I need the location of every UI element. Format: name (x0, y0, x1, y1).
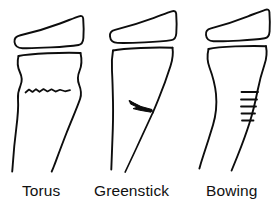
caption-bowing: Bowing (206, 182, 257, 200)
greenstick-right-cortex (153, 48, 173, 113)
greenstick-left-cortex (111, 51, 113, 170)
torus-right-cortex (52, 53, 82, 172)
panel-torus (12, 16, 83, 172)
torus-metaphysis-shaft-outline (19, 53, 81, 56)
caption-torus: Torus (22, 182, 60, 200)
fracture-diagram (0, 0, 276, 209)
caption-greenstick: Greenstick (94, 182, 169, 200)
greenstick-epiphysis-outline (110, 11, 177, 43)
bowing-metaphysis-top (209, 46, 267, 49)
bowing-epiphysis-outline (206, 9, 270, 41)
bowing-right-cortex (232, 46, 267, 170)
panel-greenstick (110, 11, 177, 172)
panel-bowing (199, 9, 269, 170)
torus-buckle-fracture-line (26, 89, 71, 93)
torus-epiphysis-outline (14, 16, 83, 48)
greenstick-metaphysis-top (113, 48, 173, 51)
fracture-types-figure: Torus Greenstick Bowing (0, 0, 276, 209)
torus-left-cortex (12, 56, 22, 172)
bowing-left-cortex (199, 49, 216, 169)
greenstick-angulated-distal-fragment (125, 113, 153, 172)
